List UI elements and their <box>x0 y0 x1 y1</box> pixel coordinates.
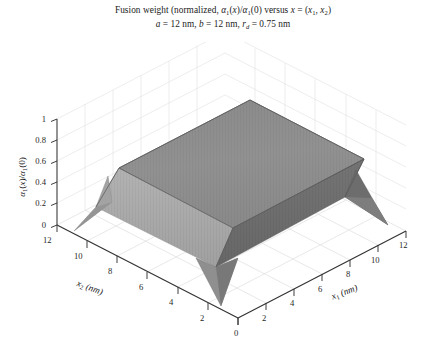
param-rd-value: = 0.75 nm <box>249 19 290 29</box>
title-var-x-4: x <box>320 5 324 15</box>
x2-tick-label-10: 10 <box>74 251 83 261</box>
x1-tick-label-8: 8 <box>346 269 350 279</box>
axis-x1-ticks <box>238 231 406 325</box>
x1-tick-label-6: 6 <box>318 284 322 294</box>
param-b-value: = 12 nm, <box>204 19 243 29</box>
z-axis-title-wrap: α1(x)/α1(0) <box>14 128 30 226</box>
z-axis-sub-2: 1 <box>21 168 28 171</box>
title-alpha-2: α <box>243 5 248 15</box>
z-axis-var-x: x <box>17 182 27 186</box>
x2-tick-label-0: 0 <box>234 328 238 338</box>
x2-tick-label-12: 12 <box>43 235 52 245</box>
figure-title-line-2: a = 12 nm, b = 12 nm, rd = 0.75 nm <box>0 18 446 32</box>
x2-tick-label-8: 8 <box>108 266 112 276</box>
z-axis-zero: (0) <box>17 157 27 168</box>
z-axis-title: α1(x)/α1(0) <box>17 157 27 197</box>
title-text-g: ) <box>328 5 331 15</box>
x2-tick-label-6: 6 <box>139 282 143 292</box>
x1-tick-label-4: 4 <box>290 298 294 308</box>
param-rd-sub: d <box>246 23 249 30</box>
figure-title-line-1: Fusion weight (normalized, α1(x)/α1(0) v… <box>0 4 446 18</box>
title-sub-2: 1 <box>248 9 251 16</box>
figure-surface-plot: Fusion weight (normalized, α1(x)/α1(0) v… <box>0 0 446 340</box>
z-tick-label-1: 1 <box>24 114 46 124</box>
plot-area <box>0 42 446 340</box>
title-sub-4: 2 <box>325 9 328 16</box>
z-axis-alpha-1: α <box>17 192 27 197</box>
x2-tick-label-2: 2 <box>200 313 204 323</box>
title-sub-1: 1 <box>226 9 229 16</box>
title-text-d: (0) versus <box>251 5 291 15</box>
z-axis-slash: )/ <box>17 176 27 182</box>
axis-z-ticks <box>51 119 57 228</box>
x1-tick-label-2: 2 <box>262 313 266 323</box>
title-sub-3: 1 <box>312 9 315 16</box>
title-text-e: = ( <box>295 5 308 15</box>
title-text-a: Fusion weight (normalized, <box>115 5 221 15</box>
param-a-value: = 12 nm, <box>161 19 200 29</box>
x2-tick-label-4: 4 <box>169 297 173 307</box>
z-axis-sub-1: 1 <box>21 189 28 192</box>
figure-title-block: Fusion weight (normalized, α1(x)/α1(0) v… <box>0 4 446 31</box>
x1-tick-label-12: 12 <box>399 240 408 250</box>
z-axis-alpha-2: α <box>17 171 27 176</box>
surface-plot-svg <box>0 42 446 340</box>
x1-tick-label-10: 10 <box>371 255 380 265</box>
